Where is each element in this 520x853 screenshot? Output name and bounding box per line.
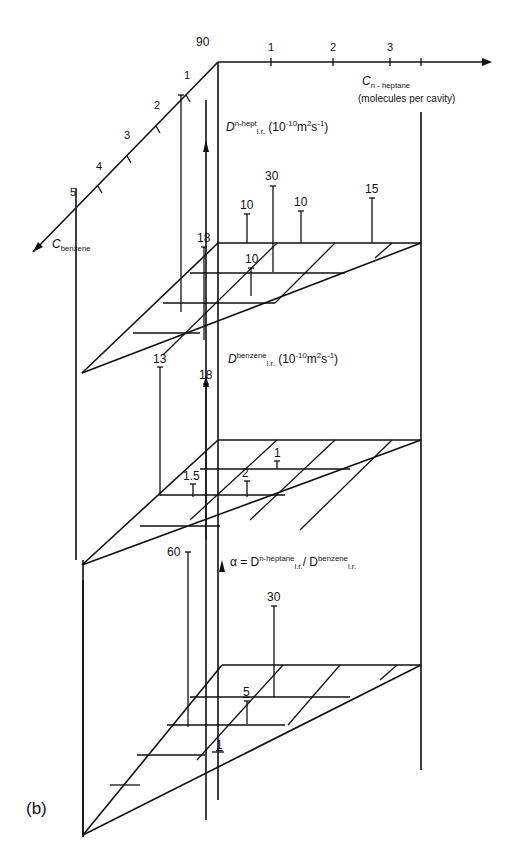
upper-value-10b: 10 (294, 196, 307, 208)
heptane-axis-subscript: n - heptane (371, 81, 410, 90)
middle-units-m: m (307, 352, 317, 366)
benzene-axis-ticks (98, 95, 190, 193)
heptane-tick-1: 1 (268, 42, 274, 53)
upper-superscript: n-hept (235, 119, 257, 128)
heptane-tick-2: 2 (330, 42, 336, 53)
benzene-axis-symbol: C (52, 237, 61, 251)
benzene-tick-3: 3 (124, 130, 130, 141)
middle-plane (82, 367, 421, 565)
upper-units-m: m (297, 120, 307, 134)
upper-units-close: ) (324, 120, 328, 134)
middle-superscript: benzene (237, 351, 267, 360)
middle-value-1: 1 (274, 447, 281, 459)
alpha-formula-prefix: α = D (230, 555, 259, 569)
heptane-axis-arrow-icon (482, 58, 492, 66)
lower-value-30: 30 (267, 591, 280, 603)
middle-subscript: l.r. (267, 359, 275, 368)
benzene-axis-subscript: benzene (61, 244, 91, 253)
benzene-axis-label: Cbenzene (52, 238, 91, 253)
middle-value-2: 2 (242, 467, 249, 479)
upper-value-15: 15 (365, 183, 378, 195)
middle-units: (10 (278, 352, 295, 366)
lower-axis-arrow-icon (219, 560, 225, 572)
alpha-formula-sub2: l.r. (348, 562, 356, 571)
benzene-tick-5: 5 (70, 187, 76, 198)
heptane-axis-units: (molecules per cavity) (358, 94, 455, 104)
benzene-tick-1: 1 (184, 70, 190, 81)
upper-units-exp: -10 (286, 119, 297, 128)
upper-plane-title: Dn-heptl.r. (10-10m2s-1) (226, 120, 328, 136)
upper-axis-arrow-icon (203, 140, 209, 152)
heptane-axis-label: Cn - heptane (362, 75, 410, 90)
lower-plane-title: α = Dn-heptanel.r./ Dbenzenel.r. (230, 555, 356, 571)
middle-plane-title: Dbenzenel.r. (10-10m2s-1) (228, 352, 338, 368)
upper-units: (10 (268, 120, 285, 134)
upper-value-90: 90 (196, 36, 209, 48)
upper-symbol: D (226, 120, 235, 134)
upper-value-10a: 10 (240, 199, 253, 211)
benzene-axis-line (33, 62, 218, 252)
benzene-tick-4: 4 (96, 161, 102, 172)
heptane-axis-symbol: C (362, 74, 371, 88)
alpha-formula-slash: / D (303, 555, 318, 569)
alpha-formula-sup1: n-heptane (259, 554, 294, 563)
middle-value-18: 18 (199, 369, 212, 381)
lower-value-60: 60 (167, 546, 180, 558)
upper-value-10c: 10 (245, 253, 258, 265)
middle-value-1-5: 1.5 (183, 470, 200, 482)
lower-plane (83, 552, 421, 835)
alpha-formula-sup2: benzene (318, 554, 348, 563)
panel-label: (b) (26, 800, 47, 817)
upper-subscript: l.r. (257, 127, 265, 136)
lower-value-5: 5 (243, 686, 250, 698)
benzene-tick-2: 2 (154, 100, 160, 111)
middle-units-exp: -10 (296, 351, 307, 360)
middle-units-close: ) (334, 352, 338, 366)
alpha-formula-sub1: l.r. (294, 562, 302, 571)
lower-value-1: 1 (216, 739, 223, 751)
middle-value-13: 13 (153, 353, 166, 365)
upper-value-30: 30 (265, 170, 278, 182)
heptane-tick-3: 3 (387, 42, 393, 53)
middle-symbol: D (228, 352, 237, 366)
upper-plane (82, 95, 421, 373)
upper-value-18: 18 (197, 232, 210, 244)
